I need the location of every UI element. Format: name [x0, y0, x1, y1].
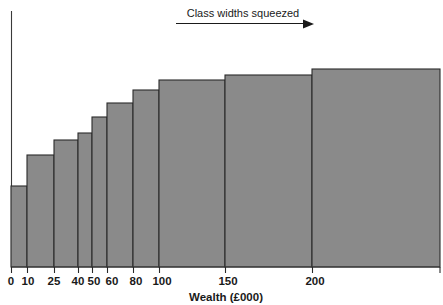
annotation-label: Class widths squeezed	[187, 7, 300, 19]
table-row	[225, 75, 312, 267]
chart-svg: Class widths squeezed	[0, 0, 443, 305]
x-tick-label: 40	[72, 275, 85, 287]
x-tick-label: 150	[218, 275, 237, 287]
histogram-chart: Class widths squeezed	[0, 0, 443, 305]
table-row	[78, 133, 92, 267]
x-axis-title: Wealth (£000)	[189, 291, 263, 303]
x-tick-label: 60	[106, 275, 119, 287]
table-row	[133, 90, 159, 267]
table-row	[54, 140, 78, 267]
table-row	[92, 117, 107, 267]
x-tick-label: 80	[130, 275, 143, 287]
annotation-group: Class widths squeezed	[176, 7, 314, 29]
x-tick-label: 0	[8, 275, 14, 287]
table-row	[159, 80, 225, 267]
x-tick-label: 50	[88, 275, 101, 287]
x-axis-ticks	[12, 267, 441, 273]
x-tick-label: 25	[48, 275, 61, 287]
x-axis-tick-labels: 0 10 25 40 50 60 80 100 150 200	[8, 275, 325, 287]
table-row	[107, 103, 133, 267]
table-row	[312, 69, 440, 267]
x-tick-label: 100	[152, 275, 171, 287]
x-tick-label: 200	[305, 275, 324, 287]
annotation-arrowhead-icon	[303, 20, 314, 29]
table-row	[11, 186, 27, 267]
bars-group	[11, 69, 440, 267]
x-tick-label: 10	[22, 275, 35, 287]
table-row	[27, 155, 54, 267]
